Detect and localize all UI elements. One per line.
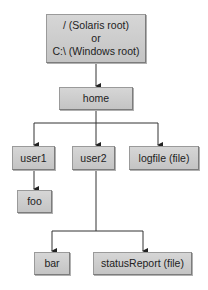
status-report-label: statusReport (file) — [101, 257, 184, 270]
home-node: home — [59, 87, 133, 110]
bar-label: bar — [44, 257, 59, 270]
status-report-node: statusReport (file) — [93, 252, 192, 275]
root-label-solaris: / (Solaris root) — [63, 19, 129, 32]
logfile-label: logfile (file) — [139, 152, 190, 165]
foo-node: foo — [17, 190, 52, 213]
root-node: / (Solaris root) or C:\ (Windows root) — [46, 14, 146, 63]
user2-label: user2 — [80, 152, 106, 165]
user2-node: user2 — [72, 146, 115, 170]
home-label: home — [83, 92, 109, 105]
bar-node: bar — [34, 252, 70, 275]
root-label-or: or — [91, 32, 100, 45]
user1-node: user1 — [12, 146, 55, 170]
foo-label: foo — [27, 195, 42, 208]
user1-label: user1 — [20, 152, 46, 165]
root-label-windows: C:\ (Windows root) — [53, 45, 140, 58]
logfile-node: logfile (file) — [129, 146, 199, 170]
